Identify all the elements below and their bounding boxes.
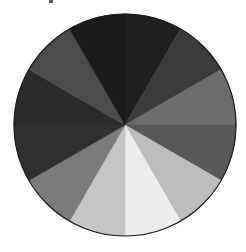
grayscale-value-wheel: [0, 0, 246, 252]
wheel-sectors: [14, 14, 236, 236]
scan-mark: [49, 0, 53, 3]
